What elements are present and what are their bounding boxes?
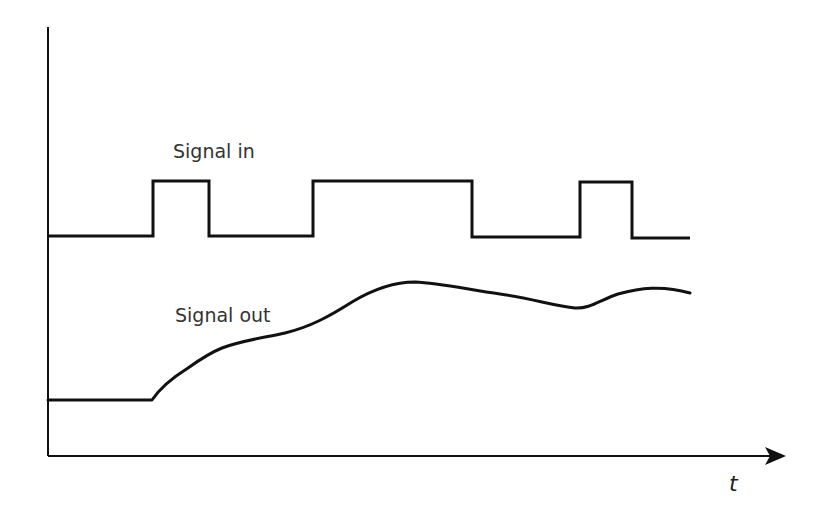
signal-out-label: Signal out bbox=[175, 304, 271, 326]
signal-in-wave bbox=[48, 181, 690, 238]
signal-out-curve bbox=[48, 282, 690, 400]
time-axis-label: t bbox=[729, 471, 739, 496]
signal-diagram: Signal in Signal out t bbox=[0, 0, 824, 513]
signal-in-label: Signal in bbox=[173, 140, 255, 162]
